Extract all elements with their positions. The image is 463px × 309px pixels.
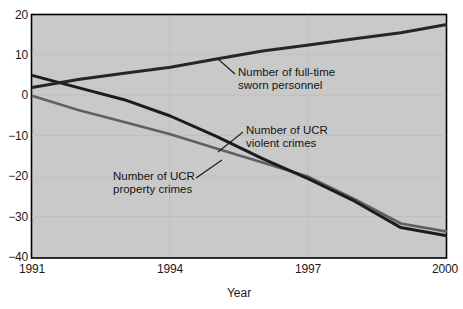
violent-crimes-annotation-line2: violent crimes [246, 137, 328, 150]
y-tick-label-neg30: −30 [0, 210, 28, 224]
y-tick-label-neg20: −20 [0, 169, 28, 183]
sworn-personnel-annotation-line2: sworn personnel [238, 79, 335, 92]
x-tick-label-1994: 1994 [145, 262, 195, 276]
property-crimes-annotation: Number of UCR property crimes [113, 170, 195, 196]
y-tick-label-10: 10 [0, 48, 28, 62]
sworn-personnel-annotation: Number of full-time sworn personnel [238, 66, 335, 92]
line-chart: 20 10 0 −10 −20 −30 −40 1991 1994 1997 2… [0, 0, 463, 309]
property-crimes-annotation-line1: Number of UCR [113, 170, 195, 183]
y-tick-label-0: 0 [0, 88, 28, 102]
x-axis-title: Year [179, 286, 299, 300]
plot-area [32, 15, 447, 259]
y-tick-label-20: 20 [0, 8, 28, 22]
violent-crimes-annotation: Number of UCR violent crimes [246, 124, 328, 150]
property-crimes-annotation-line2: property crimes [113, 183, 195, 196]
x-tick-label-1991: 1991 [7, 262, 57, 276]
y-tick-label-neg10: −10 [0, 129, 28, 143]
sworn-personnel-annotation-line1: Number of full-time [238, 66, 335, 79]
chart-canvas [0, 0, 463, 309]
violent-crimes-annotation-line1: Number of UCR [246, 124, 328, 137]
x-tick-label-1997: 1997 [283, 262, 333, 276]
x-tick-label-2000: 2000 [420, 262, 463, 276]
